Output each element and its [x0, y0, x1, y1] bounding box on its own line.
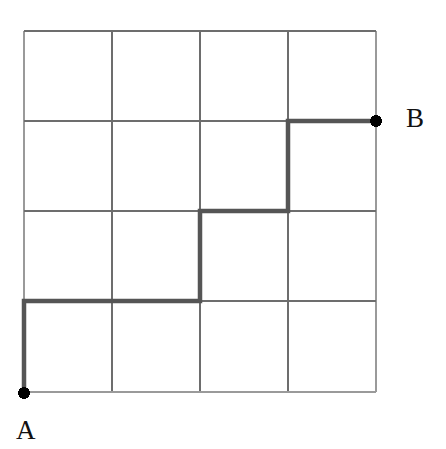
point-b-label: B — [406, 105, 424, 132]
point-a-marker — [18, 387, 30, 399]
point-b-marker — [370, 115, 382, 127]
lattice-grid-svg — [0, 0, 446, 449]
lattice-path-figure: A B — [0, 0, 446, 449]
point-a-label: A — [16, 417, 36, 444]
